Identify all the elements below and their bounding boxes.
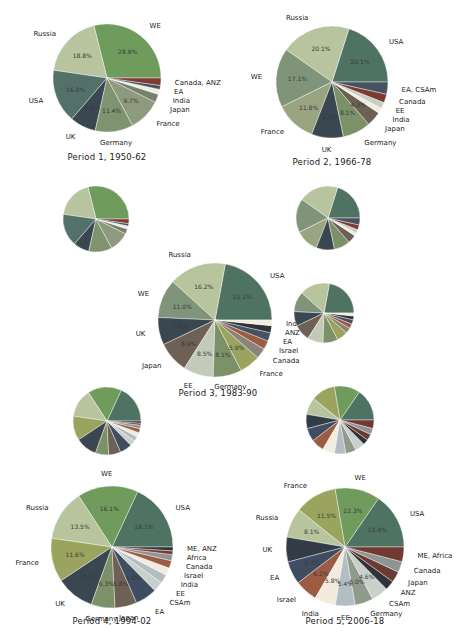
pct-label-p5-uk: 6.8% bbox=[301, 545, 317, 552]
caption-period-2: Period 2, 1966-78 bbox=[252, 157, 412, 167]
name-label-p4-france: France bbox=[16, 559, 39, 567]
name-label-p3-japan: Japan bbox=[141, 362, 162, 370]
name-label-p4-russia: Russia bbox=[26, 504, 49, 512]
name-label-p1-ea: EA bbox=[174, 88, 183, 96]
pct-label-p5-russia: 8.1% bbox=[304, 528, 320, 535]
name-label-p4-israel: Israel bbox=[184, 572, 203, 580]
name-label-p1-canada-anz: Canada, ANZ bbox=[175, 79, 221, 87]
figure-canvas: 28.9%18.8%16.0%7.8%11.4%9.7%WECanada, AN… bbox=[0, 0, 454, 642]
caption-period-5: Period 5, 2006-18 bbox=[265, 616, 425, 626]
name-label-p5-me-africa: ME, Africa bbox=[417, 552, 452, 560]
name-label-p5-russia: Russia bbox=[256, 514, 279, 522]
pie-small-2 bbox=[296, 186, 360, 250]
name-label-p5-we: WE bbox=[355, 474, 366, 482]
name-label-p3-israel: Israel bbox=[279, 347, 298, 355]
pie-period-5: 15.4%12.3%11.5%8.1%6.8%6.3%6.2%5.8%5.4%5… bbox=[286, 488, 404, 606]
caption-period-1: Period 1, 1950-62 bbox=[27, 152, 187, 162]
name-label-p2-germany: Germany bbox=[364, 139, 396, 147]
name-label-p2-ea-csam: EA, CSAm bbox=[402, 86, 437, 94]
name-label-p3-france: France bbox=[260, 370, 283, 378]
pct-label-p3-usa: 22.1% bbox=[233, 293, 252, 300]
name-label-p4-me-anz: ME, ANZ bbox=[187, 545, 217, 553]
pct-label-p2-japan: 4.3% bbox=[350, 101, 366, 108]
pct-label-p4-usa: 18.1% bbox=[134, 523, 153, 530]
pct-label-p2-germany: 8.1% bbox=[340, 109, 356, 116]
pie-small-1 bbox=[63, 186, 129, 252]
name-label-p2-canada: Canada bbox=[399, 98, 426, 106]
name-label-p1-japan: Japan bbox=[169, 106, 190, 114]
pie-small-5 bbox=[306, 386, 374, 454]
name-label-p4-usa: USA bbox=[176, 504, 191, 512]
pct-label-p5-we: 12.3% bbox=[343, 507, 362, 514]
pct-label-p5-usa: 15.4% bbox=[368, 526, 387, 533]
pct-label-p1-we: 28.9% bbox=[118, 48, 137, 55]
pct-label-p5-ea: 6.3% bbox=[305, 559, 321, 566]
pie-small-3 bbox=[294, 283, 354, 343]
pie-period-2: 20.1%20.1%17.1%11.8%9.2%8.1%4.3%USAEA, C… bbox=[276, 26, 388, 138]
pct-label-p1-germany: 11.4% bbox=[102, 107, 121, 114]
name-label-p2-uk: UK bbox=[322, 146, 332, 154]
name-label-p5-csam: CSAm bbox=[389, 600, 410, 608]
name-label-p1-uk: UK bbox=[66, 133, 76, 141]
pct-label-p3-uk: 7.8% bbox=[173, 323, 189, 330]
name-label-p2-india: India bbox=[392, 116, 409, 124]
name-label-p4-india: India bbox=[181, 581, 198, 589]
pct-label-p5-france: 11.5% bbox=[317, 512, 336, 519]
name-label-p4-ee: EE bbox=[176, 590, 185, 598]
pct-label-p5-csam: 4.6% bbox=[359, 573, 375, 580]
name-label-p2-usa: USA bbox=[389, 38, 404, 46]
pct-label-p3-we: 11.0% bbox=[173, 303, 192, 310]
name-label-p4-csam: CSAm bbox=[169, 599, 190, 607]
name-label-p3-uk: UK bbox=[136, 330, 146, 338]
name-label-p3-canada: Canada bbox=[273, 357, 300, 365]
name-label-p5-anz: ANZ bbox=[401, 589, 416, 597]
name-label-p4-canada: Canada bbox=[186, 563, 213, 571]
name-label-p5-israel: Israel bbox=[277, 596, 296, 604]
pct-label-p1-france: 9.7% bbox=[123, 97, 139, 104]
pct-label-p4-france: 11.6% bbox=[66, 551, 85, 558]
pie-period-3: 22.1%16.2%11.0%7.8%8.9%8.5%8.1%5.9%USAIn… bbox=[158, 263, 272, 377]
name-label-p1-france: France bbox=[156, 120, 179, 128]
pct-label-p3-germany: 8.1% bbox=[215, 351, 231, 358]
name-label-p2-japan: Japan bbox=[384, 125, 405, 133]
name-label-p1-germany: Germany bbox=[100, 139, 132, 147]
name-label-p5-france: France bbox=[284, 482, 307, 490]
pct-label-p2-we: 17.1% bbox=[288, 75, 307, 82]
pct-label-p1-usa: 16.0% bbox=[66, 86, 85, 93]
pct-label-p1-uk: 7.8% bbox=[84, 104, 100, 111]
caption-period-4: Period 4, 1994-02 bbox=[32, 616, 192, 626]
pct-label-p3-russia: 16.2% bbox=[194, 283, 213, 290]
pct-label-p3-japan: 8.9% bbox=[181, 340, 197, 347]
pct-label-p4-germany: 6.3% bbox=[99, 580, 115, 587]
name-label-p3-russia: Russia bbox=[168, 251, 191, 259]
name-label-p5-usa: USA bbox=[410, 510, 425, 518]
pct-label-p4-ea: 5.8% bbox=[126, 574, 142, 581]
name-label-p2-ee: EE bbox=[396, 107, 405, 115]
name-label-p4-we: WE bbox=[101, 470, 112, 478]
name-label-p3-usa: USA bbox=[270, 272, 285, 280]
name-label-p5-uk: UK bbox=[262, 546, 272, 554]
name-label-p2-russia: Russia bbox=[286, 14, 309, 22]
name-label-p3-we: WE bbox=[138, 290, 149, 298]
name-label-p5-ea: EA bbox=[270, 574, 279, 582]
pct-label-p2-russia: 20.1% bbox=[311, 45, 330, 52]
name-label-p5-canada: Canada bbox=[414, 567, 441, 575]
pct-label-p3-ee: 8.5% bbox=[197, 350, 213, 357]
name-label-p1-india: India bbox=[173, 97, 190, 105]
caption-period-3: Period 3, 1983-90 bbox=[138, 388, 298, 398]
name-label-p4-uk: UK bbox=[55, 600, 65, 608]
pie-period-4: 18.1%16.1%13.5%11.6%10.2%6.3%5.8%5.8%USA… bbox=[51, 486, 173, 608]
pct-label-p4-we: 16.1% bbox=[100, 505, 119, 512]
name-label-p1-russia: Russia bbox=[33, 30, 56, 38]
name-label-p1-usa: USA bbox=[29, 97, 44, 105]
name-label-p1-we: WE bbox=[150, 22, 161, 30]
pct-label-p1-russia: 18.8% bbox=[73, 52, 92, 59]
name-label-p2-we: WE bbox=[251, 73, 262, 81]
name-label-p3-ea: EA bbox=[283, 338, 292, 346]
name-label-p5-japan: Japan bbox=[407, 579, 428, 587]
pct-label-p2-usa: 20.1% bbox=[350, 58, 369, 65]
pie-period-1: 28.9%18.8%16.0%7.8%11.4%9.7%WECanada, AN… bbox=[53, 24, 161, 132]
pie-small-4 bbox=[73, 387, 141, 455]
pct-label-p5-israel: 6.2% bbox=[313, 570, 329, 577]
pct-label-p2-uk: 9.2% bbox=[322, 113, 338, 120]
